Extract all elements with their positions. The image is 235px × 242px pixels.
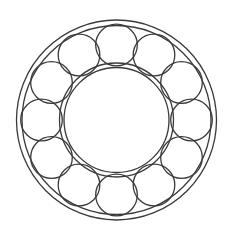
ball-bearing-diagram [0, 0, 235, 242]
outer-race-group [17, 20, 217, 220]
inner-race-outer-circle [60, 63, 174, 177]
drawing-canvas [0, 0, 235, 242]
outer-race-outer-circle [17, 20, 217, 220]
outer-race-inner-circle [22, 26, 211, 215]
ball-8 [58, 164, 100, 206]
ball-2 [133, 34, 175, 76]
inner-race-group [60, 63, 174, 177]
ball-6 [133, 164, 175, 206]
ball-12 [58, 34, 100, 76]
ball-11 [31, 62, 73, 104]
ball-4 [171, 99, 213, 141]
inner-race-inner-circle [64, 68, 169, 173]
ball-5 [161, 137, 203, 179]
ball-7 [96, 174, 138, 216]
ball-3 [161, 62, 203, 104]
ball-1 [96, 24, 138, 66]
ball-9 [31, 137, 73, 179]
ball-10 [21, 99, 63, 141]
